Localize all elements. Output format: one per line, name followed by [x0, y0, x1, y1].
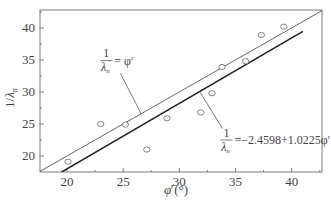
y-tick-label: 25 — [22, 116, 35, 131]
y-tick-label: 35 — [22, 52, 35, 67]
x-tick-label: 40 — [285, 174, 298, 189]
identity-leader-line — [120, 73, 141, 114]
data-point — [197, 110, 203, 115]
lines-layer — [40, 11, 322, 172]
x-axis: 2025303540 — [60, 168, 319, 189]
identity-label-numerator: 1 — [103, 46, 109, 60]
y-tick-label: 30 — [22, 84, 35, 99]
x-tick-label: 25 — [117, 174, 130, 189]
y-axis-title-num: 1/ — [2, 97, 17, 108]
data-point — [164, 116, 170, 121]
data-point — [258, 32, 264, 37]
rhs-text: = φ — [114, 54, 131, 68]
rhs-sup: r — [131, 54, 134, 62]
data-point — [209, 91, 215, 96]
data-point — [219, 64, 225, 69]
fit-label-numerator: 1 — [224, 126, 230, 140]
rhs-text: =−2.4598+1.0225φ — [235, 133, 328, 147]
data-point — [144, 147, 150, 152]
y-axis-title: 1/λn — [2, 88, 19, 108]
annotations-layer: 1λn= φr1λn=−2.4598+1.0225φr — [100, 46, 331, 154]
fit-line — [61, 31, 303, 172]
y-tick-label: 40 — [22, 20, 35, 35]
x-axis-title: φr(°) — [164, 182, 188, 197]
identity-label-denominator: λn — [100, 60, 110, 75]
data-point — [242, 59, 248, 64]
identity-line — [40, 11, 322, 172]
data-point — [65, 159, 71, 164]
fit-label-denominator: λn — [220, 140, 230, 155]
y-axis: 2025303540 — [22, 12, 44, 164]
data-point — [122, 122, 128, 127]
x-axis-title-unit: (°) — [174, 182, 188, 197]
y-tick-label: 20 — [22, 148, 35, 163]
data-point — [97, 121, 103, 126]
y-axis-title-sub: n — [10, 88, 19, 92]
scatter-chart: 2025303540 2025303540 1λn= φr1λn=−2.4598… — [0, 0, 331, 209]
x-tick-label: 20 — [60, 174, 73, 189]
denominator-sub: n — [106, 67, 110, 75]
data-point — [281, 24, 287, 29]
denominator-sub: n — [226, 147, 230, 155]
x-axis-title-var: φ — [164, 182, 171, 197]
identity-label-rhs: = φr — [114, 54, 134, 68]
x-tick-label: 35 — [229, 174, 242, 189]
fit-label-rhs: =−2.4598+1.0225φr — [235, 133, 331, 147]
rhs-sup: r — [328, 133, 331, 141]
